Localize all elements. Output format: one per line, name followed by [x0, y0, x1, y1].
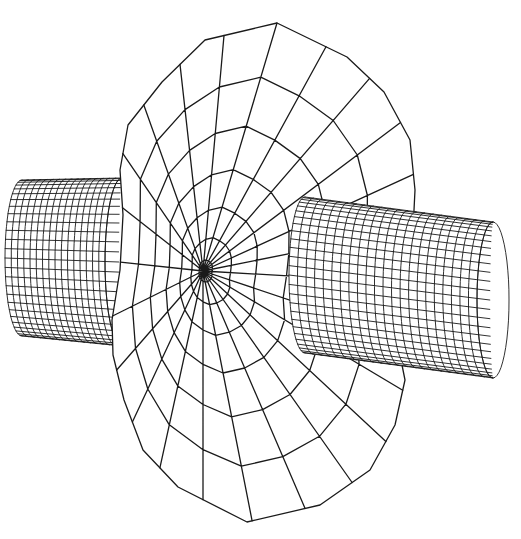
wireframe-figure — [0, 0, 521, 539]
wireframe-svg — [0, 0, 521, 539]
right-cylinder-mesh — [289, 197, 509, 378]
